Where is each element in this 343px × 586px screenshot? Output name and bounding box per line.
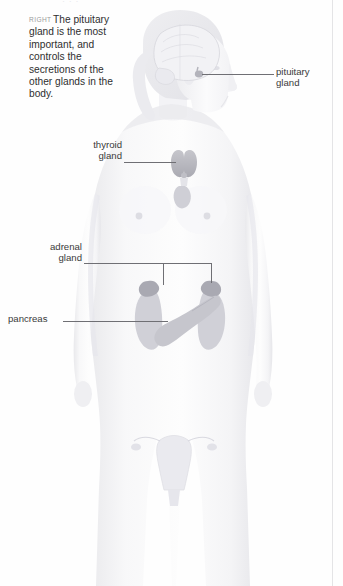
leader-pituitary [202,74,274,75]
caption-block: RIGHTThe pituitary gland is the most imp… [29,14,125,101]
leader-adrenal-drop-right [211,263,212,283]
leader-thyroid [124,162,176,163]
label-thyroid-line2: gland [48,150,122,161]
leader-adrenal-drop-left [163,263,164,285]
leader-pancreas [63,321,168,322]
caption-text: The pituitary gland is the most importan… [29,14,113,99]
label-adrenal-line1: adrenal [8,241,82,252]
label-thyroid-line1: thyroid [48,139,122,150]
caption-kicker: RIGHT [29,16,53,23]
label-pancreas-line1: pancreas [8,313,64,324]
leader-adrenal-horizontal [84,263,212,264]
label-pancreas: pancreas [8,313,64,324]
illustration-page: · · · [0,0,343,586]
label-adrenal-gland: adrenal gland [8,241,82,264]
label-pituitary-line2: gland [276,77,310,88]
label-adrenal-line2: gland [8,252,82,263]
label-pituitary-line1: pituitary [276,66,310,77]
label-pituitary-gland: pituitary gland [276,66,310,89]
label-thyroid-gland: thyroid gland [48,139,122,162]
